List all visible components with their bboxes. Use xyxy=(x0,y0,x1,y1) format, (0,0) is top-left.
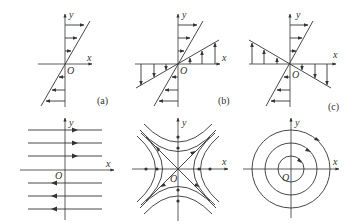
y-label: y xyxy=(294,117,300,128)
panel-caption: (b) xyxy=(218,95,230,107)
origin-label: O xyxy=(180,65,187,76)
x-label: x xyxy=(221,156,227,167)
figure-canvas: y x O (a) y x O (b) xyxy=(0,0,360,224)
y-label: y xyxy=(68,117,74,128)
origin-label: O xyxy=(292,69,299,80)
x-label: x xyxy=(332,49,338,60)
x-label: x xyxy=(86,52,92,63)
origin-label: O xyxy=(67,65,74,76)
y-label: y xyxy=(181,9,187,20)
panel-caption: (c) xyxy=(328,101,339,113)
panel-e: y x O xyxy=(132,117,228,221)
x-label: x xyxy=(105,158,111,169)
shear-line xyxy=(41,21,90,106)
x-label: x xyxy=(221,52,227,63)
panel-f: y x O xyxy=(243,117,339,218)
origin-label: O xyxy=(55,170,62,181)
y-label: y xyxy=(181,117,187,128)
origin-label: O xyxy=(282,172,289,183)
y-label: y xyxy=(295,9,301,20)
panel-a: y x O (a) xyxy=(38,9,108,107)
panel-b: y x O (b) xyxy=(135,9,230,107)
panel-caption: (a) xyxy=(97,95,108,107)
x-label: x xyxy=(332,156,338,167)
panel-c: y x O (c) xyxy=(249,9,339,113)
y-label: y xyxy=(68,9,74,20)
origin-label: O xyxy=(170,173,177,184)
panel-d: y x O xyxy=(20,117,114,220)
